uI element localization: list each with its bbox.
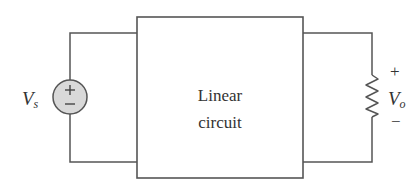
output-subscript: o [400, 97, 406, 111]
input-wire-top [70, 33, 137, 80]
output-label: Vo [388, 88, 406, 112]
source-label: Vs [22, 88, 38, 112]
block-label-line1: Linear [137, 82, 303, 110]
output-symbol: V [388, 88, 400, 109]
output-wire-top [303, 33, 372, 75]
input-wire-bottom [70, 114, 137, 162]
block-label-line2: circuit [137, 109, 303, 137]
resistor-icon [366, 75, 378, 117]
output-wire-bottom [303, 117, 372, 162]
source-subscript: s [34, 97, 39, 111]
source-symbol: V [22, 88, 34, 109]
output-plus: + [390, 62, 400, 82]
output-minus: − [391, 112, 401, 132]
